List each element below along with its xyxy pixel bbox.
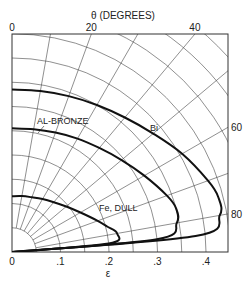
polar-emissivity-chart: θ (DEGREES) ε 0204060800.1.2.3.4 AL-BRON…	[0, 0, 252, 284]
annotation-fe-dull: Fe, DULL	[99, 203, 138, 213]
annotation-bi: Bi	[150, 123, 158, 133]
epsilon-tick-label: .1	[56, 256, 65, 267]
epsilon-tick-label: .3	[153, 256, 162, 267]
grid-circle	[12, 0, 252, 252]
tick-labels: 0204060800.1.2.3.4	[9, 22, 242, 267]
grid-radial	[31, 49, 252, 236]
grid-circle	[12, 0, 252, 252]
theta-tick-label: 0	[9, 22, 15, 33]
series-curve-al-bronze	[12, 128, 178, 252]
epsilon-tick-label: .4	[202, 256, 211, 267]
theta-tick-label: 20	[86, 22, 98, 33]
axis-labels: θ (DEGREES) ε	[91, 10, 155, 279]
theta-tick-label: 60	[231, 122, 243, 133]
theta-tick-label: 80	[231, 209, 243, 220]
grid-circle	[12, 228, 36, 252]
epsilon-axis-title: ε	[106, 268, 111, 279]
theta-axis-title: θ (DEGREES)	[91, 10, 155, 21]
grid-circle	[12, 0, 252, 252]
series-annotations: AL-BRONZE Bi Fe, DULL	[37, 116, 158, 213]
epsilon-tick-label: .2	[105, 256, 114, 267]
series-curves	[12, 90, 221, 252]
polar-grid	[12, 0, 252, 252]
series-curve-bi	[12, 90, 221, 252]
epsilon-tick-label: 0	[9, 256, 15, 267]
theta-tick-label: 40	[189, 22, 201, 33]
annotation-al-bronze: AL-BRONZE	[37, 116, 89, 126]
